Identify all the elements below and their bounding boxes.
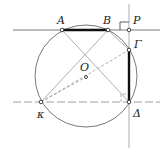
point-b <box>106 28 110 32</box>
segment-k-o <box>41 77 86 102</box>
point-k <box>39 100 43 104</box>
label-k: κ <box>36 108 45 121</box>
geometry-diagram: A B P Γ Δ κ O <box>0 0 166 154</box>
label-delta: Δ <box>132 107 141 120</box>
segment-b-gamma <box>108 30 129 50</box>
label-a: A <box>56 14 65 27</box>
point-p <box>127 28 131 32</box>
segment-b-k <box>41 30 108 102</box>
label-p: P <box>132 14 141 27</box>
point-delta <box>127 100 131 104</box>
point-gamma <box>127 48 131 52</box>
label-o: O <box>80 61 89 74</box>
point-o <box>85 76 88 79</box>
label-gamma: Γ <box>133 38 142 51</box>
point-a <box>60 28 64 32</box>
label-b: B <box>102 14 111 27</box>
